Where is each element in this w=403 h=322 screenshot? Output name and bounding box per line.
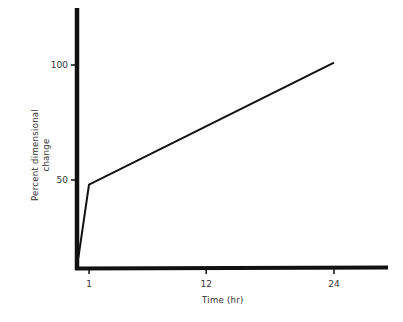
y-ticks: 50100 [51,60,77,185]
y-tick-label: 100 [51,60,68,70]
y-axis-title-line1: Percent dimensional [30,109,40,201]
x-tick-label: 12 [200,279,211,289]
data-line [78,63,334,259]
x-axis [75,268,388,269]
y-tick-label: 50 [57,175,69,185]
x-ticks: 11224 [86,268,340,289]
line-chart: 50100 11224 Time (hr) Percent dimensiona… [0,0,403,322]
y-axis-title-line2: change [41,138,51,171]
x-axis-title: Time (hr) [201,295,244,305]
x-tick-label: 24 [328,279,340,289]
x-tick-label: 1 [86,279,92,289]
